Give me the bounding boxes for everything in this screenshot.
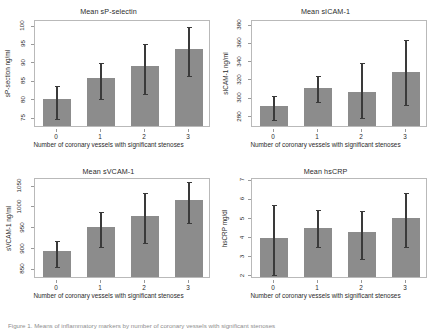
- y-tick-mark: [31, 227, 34, 228]
- y-tick-mark: [248, 98, 251, 99]
- y-tick-text: 320: [234, 74, 241, 84]
- y-tick-text: 1000: [16, 199, 23, 213]
- chart-panel-bottom-left: Mean sVCAM-1sVCAM-1 ng/ml850900950100010…: [0, 160, 217, 312]
- error-bar: [273, 96, 274, 120]
- y-axis-ticks: 7580859095100: [12, 20, 28, 127]
- figure-caption: Figure 1. Means of inflammatory markers …: [8, 322, 428, 329]
- y-tick-mark: [248, 43, 251, 44]
- x-tick-label: 2: [359, 284, 363, 291]
- y-tick-mark: [31, 26, 34, 27]
- x-tick-label: 1: [98, 133, 102, 140]
- x-axis-label: Number of coronary vessels with signific…: [0, 141, 217, 148]
- y-tick-mark: [31, 62, 34, 63]
- error-bar-cap: [143, 94, 148, 95]
- x-tick-label: 1: [315, 284, 319, 291]
- error-bar: [100, 212, 101, 247]
- error-bar: [188, 182, 189, 222]
- error-bar-cap: [316, 76, 321, 77]
- error-bar: [317, 76, 318, 103]
- error-bar-cap: [55, 86, 60, 87]
- y-tick-mark: [31, 118, 34, 119]
- chart-panel-top-left: Mean sP-selectinsP-section ng/ml75808590…: [0, 0, 217, 160]
- chart-title: Mean sP-selectin: [0, 7, 217, 16]
- error-bar-cap: [272, 275, 277, 276]
- error-bar: [273, 205, 274, 275]
- error-bar-cap: [143, 243, 148, 244]
- plot-area: [251, 20, 427, 127]
- x-tick-mark: [56, 129, 57, 132]
- bar-series: [35, 21, 209, 126]
- error-bar-cap: [187, 76, 192, 77]
- x-tick-mark: [317, 280, 318, 283]
- x-tick-mark: [100, 280, 101, 283]
- error-bar: [100, 63, 101, 100]
- x-axis-ticks: 0123: [251, 129, 427, 141]
- error-bar: [361, 63, 362, 118]
- x-tick-label: 1: [98, 284, 102, 291]
- error-bar-cap: [55, 241, 60, 242]
- x-tick-mark: [273, 280, 274, 283]
- y-tick-text: 6: [238, 197, 245, 200]
- x-axis-label: Number of coronary vessels with signific…: [0, 292, 217, 299]
- x-tick-mark: [188, 280, 189, 283]
- y-tick-mark: [31, 269, 34, 270]
- figure-panel-grid: Mean sP-selectinsP-section ng/ml75808590…: [0, 0, 434, 330]
- y-tick-mark: [31, 186, 34, 187]
- y-tick-text: 95: [19, 41, 26, 48]
- x-tick-label: 0: [54, 133, 58, 140]
- error-bar: [405, 193, 406, 246]
- x-tick-label: 2: [142, 133, 146, 140]
- chart-title: Mean sVCAM-1: [0, 167, 217, 176]
- y-tick-text: 380: [234, 19, 241, 29]
- y-tick-text: 4: [238, 235, 245, 238]
- error-bar-cap: [187, 27, 192, 28]
- y-tick-text: 950: [17, 222, 24, 232]
- x-tick-mark: [405, 129, 406, 132]
- bar-series: [252, 179, 426, 277]
- error-bar-cap: [55, 119, 60, 120]
- x-tick-mark: [361, 280, 362, 283]
- y-axis-label-text: sICAM-1 ng/ml: [222, 52, 229, 94]
- error-bar-cap: [360, 118, 365, 119]
- error-bar-cap: [404, 193, 409, 194]
- x-axis-ticks: 0123: [34, 280, 210, 292]
- x-tick-mark: [144, 129, 145, 132]
- bar-series: [35, 179, 209, 277]
- y-tick-text: 360: [234, 38, 241, 48]
- y-axis-label-text: hsCRP mg/dl: [222, 209, 229, 247]
- x-tick-label: 3: [186, 284, 190, 291]
- y-tick-text: 5: [238, 216, 245, 219]
- y-axis-label-text: sVCAM-1 ng/ml: [5, 206, 12, 251]
- y-tick-mark: [248, 199, 251, 200]
- error-bar-cap: [316, 247, 321, 248]
- x-tick-label: 0: [54, 284, 58, 291]
- y-tick-mark: [248, 256, 251, 257]
- y-tick-mark: [31, 206, 34, 207]
- error-bar-cap: [99, 63, 104, 64]
- error-bar-cap: [404, 247, 409, 248]
- x-tick-mark: [317, 129, 318, 132]
- y-tick-text: 300: [234, 93, 241, 103]
- y-axis-ticks: 85090095010001050: [12, 178, 28, 278]
- error-bar: [317, 210, 318, 246]
- error-bar-cap: [55, 267, 60, 268]
- y-tick-text: 340: [234, 56, 241, 66]
- y-tick-mark: [31, 99, 34, 100]
- y-tick-text: 3: [238, 254, 245, 257]
- x-tick-mark: [361, 129, 362, 132]
- error-bar-cap: [316, 210, 321, 211]
- x-tick-label: 1: [315, 133, 319, 140]
- y-tick-text: 2: [238, 273, 245, 276]
- error-bar-cap: [99, 99, 104, 100]
- y-axis-ticks: 280300320340360380: [229, 20, 245, 127]
- x-tick-mark: [100, 129, 101, 132]
- y-tick-text: 850: [17, 264, 24, 274]
- x-tick-mark: [188, 129, 189, 132]
- y-tick-text: 85: [19, 77, 26, 84]
- error-bar-cap: [99, 212, 104, 213]
- error-bar-cap: [272, 96, 277, 97]
- x-axis-ticks: 0123: [34, 129, 210, 141]
- x-axis-label: Number of coronary vessels with signific…: [217, 292, 434, 299]
- x-tick-mark: [144, 280, 145, 283]
- y-tick-mark: [248, 218, 251, 219]
